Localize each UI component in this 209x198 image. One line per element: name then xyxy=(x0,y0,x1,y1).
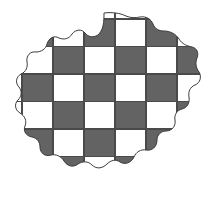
checker-cell xyxy=(84,74,115,102)
checkerboard-blob-figure xyxy=(0,0,209,198)
checker-cell xyxy=(115,47,146,75)
checker-cell xyxy=(53,102,84,130)
figure-container xyxy=(0,0,209,198)
checker-cell xyxy=(22,74,53,102)
checker-cell xyxy=(146,74,177,102)
checker-cell xyxy=(115,102,146,130)
checker-cell xyxy=(53,47,84,75)
checker-cell xyxy=(84,129,115,157)
